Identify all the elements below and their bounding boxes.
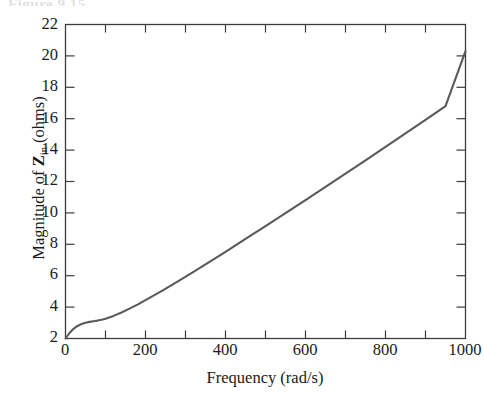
axis-frame: [66, 25, 466, 339]
y-axis-ticks: [66, 56, 466, 307]
plot-area: [0, 0, 484, 397]
x-axis-ticks: [106, 25, 426, 339]
figure-root: Figure 9.15 Magnitude of Zin (ohms) 22 2…: [0, 0, 484, 397]
data-series-line: [66, 51, 466, 338]
